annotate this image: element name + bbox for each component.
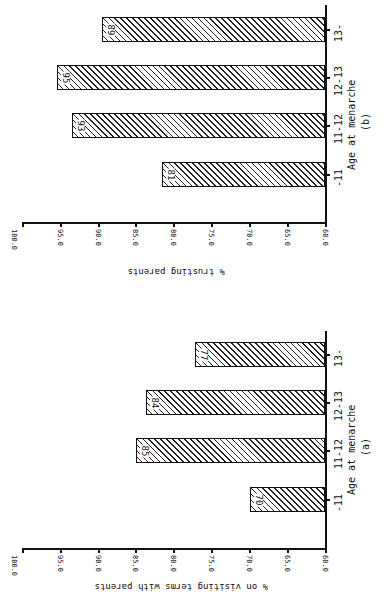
tick-mark — [325, 499, 330, 501]
tick-mark — [135, 548, 137, 553]
tick-mark — [325, 548, 327, 553]
bar-11-12: 93 — [72, 113, 325, 138]
category-axis — [325, 5, 327, 223]
tick-mark — [173, 548, 175, 553]
tick-mark — [22, 222, 24, 227]
category-label: 11-12 — [333, 439, 344, 469]
bar-value-label: 77 — [199, 348, 208, 361]
bar-value-label: 81 — [166, 168, 175, 181]
tick-label: 90.0 — [94, 229, 102, 246]
tick-label: 65.0 — [283, 555, 291, 572]
bar-under-11: 81 — [162, 162, 325, 187]
tick-label: 85.0 — [131, 555, 139, 572]
tick-mark — [325, 354, 330, 356]
tick-label: 85.0 — [131, 229, 139, 246]
category-label: 13- — [333, 24, 344, 42]
bar-value-label: 70 — [254, 493, 263, 506]
tick-mark — [60, 222, 62, 227]
tick-mark — [325, 222, 327, 227]
bar-11-12: 85 — [136, 438, 325, 463]
tick-mark — [211, 548, 213, 553]
tick-label: 75.0 — [207, 555, 215, 572]
tick-mark — [325, 450, 330, 452]
tick-mark — [98, 222, 100, 227]
bar-12-13: 84 — [146, 390, 325, 415]
tick-mark — [249, 548, 251, 553]
tick-label: 100.0 — [10, 555, 18, 576]
tick-label: 100.0 — [10, 229, 18, 250]
category-label: 12-13 — [333, 66, 344, 96]
tick-mark — [98, 548, 100, 553]
bar-13-plus: 89 — [102, 17, 325, 42]
tick-label: 90.0 — [94, 555, 102, 572]
category-label: 13- — [333, 349, 344, 367]
tick-mark — [249, 222, 251, 227]
category-label: -11 — [333, 169, 344, 187]
panel-label: (b) — [360, 113, 371, 131]
panel-label: (a) — [360, 438, 371, 456]
category-label: 12-13 — [333, 391, 344, 421]
tick-mark — [211, 222, 213, 227]
x-axis-title: Age at menarche — [346, 405, 357, 495]
x-axis-title: Age at menarche — [346, 80, 357, 170]
tick-mark — [287, 548, 289, 553]
category-label: 11-12 — [333, 114, 344, 144]
tick-mark — [22, 548, 24, 553]
bar-value-label: 84 — [150, 396, 159, 409]
tick-mark — [60, 548, 62, 553]
tick-label: 60.0 — [321, 555, 329, 572]
y-axis-title: % on visiting terms with parents — [95, 582, 268, 592]
tick-label: 95.0 — [56, 555, 64, 572]
tick-label: 70.0 — [245, 229, 253, 246]
bar-under-11: 70 — [250, 487, 325, 512]
bar-value-label: 85 — [140, 444, 149, 457]
tick-mark — [287, 222, 289, 227]
tick-label: 80.0 — [169, 229, 177, 246]
tick-label: 65.0 — [283, 229, 291, 246]
category-axis — [325, 331, 327, 549]
chart-panel-a: 100.0 95.0 90.0 85.0 80.0 75.0 70.0 65.0… — [0, 326, 385, 607]
chart-panel-b: 100.0 95.0 90.0 85.0 80.0 75.0 70.0 65.0… — [0, 0, 385, 300]
tick-label: 95.0 — [56, 229, 64, 246]
bar-value-label: 89 — [106, 23, 115, 36]
bar-12-13: 95 — [57, 65, 325, 90]
y-axis-title: % trusting parents — [127, 267, 225, 277]
bar-13-plus: 77 — [195, 342, 325, 367]
tick-mark — [325, 77, 330, 79]
tick-label: 60.0 — [321, 229, 329, 246]
tick-mark — [173, 222, 175, 227]
tick-label: 75.0 — [207, 229, 215, 246]
tick-mark — [325, 29, 330, 31]
tick-mark — [135, 222, 137, 227]
tick-mark — [325, 174, 330, 176]
tick-label: 70.0 — [245, 555, 253, 572]
bar-value-label: 93 — [76, 119, 85, 132]
tick-label: 80.0 — [169, 555, 177, 572]
bar-value-label: 95 — [61, 71, 70, 84]
tick-mark — [325, 125, 330, 127]
category-label: -11 — [333, 494, 344, 512]
tick-mark — [325, 402, 330, 404]
